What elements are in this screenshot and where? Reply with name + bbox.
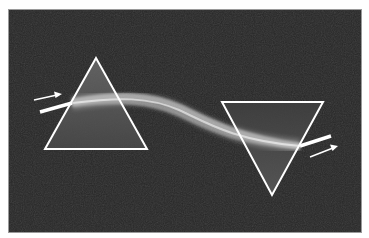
- prism-illustration: [9, 10, 361, 232]
- prism-diagram-svg: [9, 10, 361, 232]
